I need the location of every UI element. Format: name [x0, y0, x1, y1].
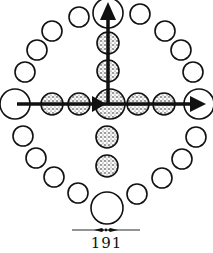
small-open-circle	[68, 183, 88, 203]
small-open-circle	[26, 148, 46, 168]
small-open-circle	[13, 126, 33, 146]
small-open-circle	[15, 62, 35, 82]
small-open-circle	[171, 40, 191, 60]
small-open-circle	[152, 168, 172, 188]
ornament-rule	[72, 228, 140, 232]
large-open-circle	[91, 192, 123, 224]
small-open-circle	[183, 62, 203, 82]
page-number: 191	[0, 234, 213, 252]
up-arrowhead-icon	[100, 2, 116, 20]
small-open-circle	[42, 21, 62, 41]
small-open-circle	[130, 4, 150, 24]
small-open-circle	[186, 127, 206, 147]
circle-cross-diagram	[0, 0, 213, 253]
right-arrowhead-icon	[190, 96, 206, 112]
stippled-circle	[96, 155, 118, 177]
small-open-circle	[172, 149, 192, 169]
small-open-circle	[127, 184, 147, 204]
stippled-circle	[96, 126, 118, 148]
small-open-circle	[44, 167, 64, 187]
figure-page: 191	[0, 0, 213, 253]
small-open-circle	[155, 21, 175, 41]
small-open-circle	[69, 7, 89, 27]
small-open-circle	[27, 40, 47, 60]
